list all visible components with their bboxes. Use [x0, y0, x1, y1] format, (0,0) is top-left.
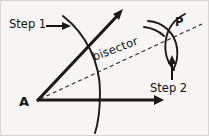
step1-compass-arc: [63, 16, 100, 133]
step2-leader-arrowhead: [168, 55, 176, 64]
horizontal-ray-arrowhead: [154, 95, 164, 105]
step1-label: Step 1: [9, 19, 46, 31]
point-p-label: P: [175, 17, 183, 29]
vertex-a-label: A: [19, 95, 29, 108]
step2-label: Step 2: [150, 83, 187, 95]
step1-leader-arrowhead: [62, 22, 71, 30]
step2-arc-fragment: [144, 27, 164, 36]
angle-bisector-figure: Step 1 Step 2 A P bisector: [0, 0, 209, 136]
